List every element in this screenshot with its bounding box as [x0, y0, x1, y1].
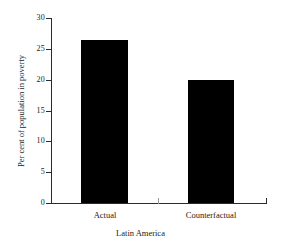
plot-area: 30 25 20 15 10 5 0 Actual Counterfactual… — [0, 0, 281, 247]
x-tick-middle — [158, 198, 159, 204]
y-tick-5 — [46, 172, 52, 173]
y-tick-25 — [46, 49, 52, 50]
x-tick-right-end — [266, 198, 267, 204]
y-tick-20 — [46, 80, 52, 81]
y-tick-label-30: 30 — [5, 14, 45, 22]
y-tick-10 — [46, 141, 52, 142]
y-tick-0 — [46, 203, 52, 204]
x-axis-line — [51, 203, 267, 204]
bar-counterfactual — [188, 80, 234, 203]
y-tick-label-0: 0 — [5, 199, 45, 207]
y-tick-15 — [46, 111, 52, 112]
bar-actual — [81, 40, 128, 203]
x-category-label-actual: Actual — [74, 210, 136, 220]
y-tick-30 — [46, 18, 52, 19]
bar-chart-figure: 30 25 20 15 10 5 0 Actual Counterfactual… — [0, 0, 281, 247]
y-axis-title: Per cent of population in poverty — [16, 26, 26, 196]
x-axis-title: Latin America — [0, 228, 281, 238]
x-category-label-counterfactual: Counterfactual — [176, 210, 246, 220]
